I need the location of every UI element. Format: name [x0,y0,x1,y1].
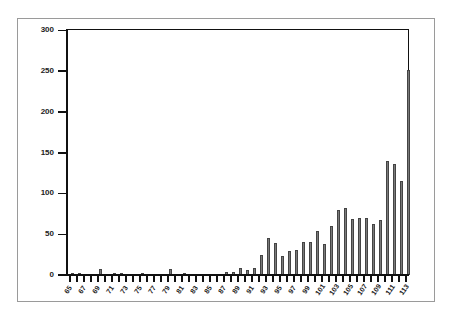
x-tick [272,275,274,282]
bar-99 [309,242,312,275]
bar-110 [386,161,389,275]
y-tick [58,275,67,277]
x-tick [370,275,372,282]
bar-112 [400,181,403,275]
x-tick [356,275,358,282]
bar-113 [407,70,410,275]
bar-106 [358,218,361,275]
y-tick [58,30,67,32]
y-tick-label: 100 [14,188,54,197]
bar-96 [288,251,291,276]
x-tick [328,275,330,282]
bar-100 [316,231,319,275]
x-tick [160,275,162,282]
bar-95 [281,256,284,275]
bar-111 [393,164,396,275]
bar-105 [351,219,354,275]
bar-94 [274,243,277,275]
bar-92 [260,255,263,275]
y-tick [58,70,67,72]
bar-104 [344,208,347,275]
bar-101 [323,244,326,275]
x-tick [202,275,204,282]
bar-98 [302,242,305,275]
x-tick [132,275,134,282]
x-tick [398,275,400,282]
x-tick [174,275,176,282]
x-tick [90,275,92,282]
y-tick-label: 200 [14,107,54,116]
x-tick [76,275,78,282]
x-tick [300,275,302,282]
x-tick [314,275,316,282]
bar-108 [372,224,375,275]
x-tick [258,275,260,282]
bar-107 [365,218,368,275]
y-tick-label: 250 [14,66,54,75]
bar-97 [295,250,298,275]
y-tick [58,111,67,113]
x-tick [384,275,386,282]
x-tick [104,275,106,282]
y-tick-label: 300 [14,25,54,34]
bar-103 [337,210,340,275]
x-tick [146,275,148,282]
x-tick [286,275,288,282]
y-tick [58,152,67,154]
y-tick-label: 150 [14,148,54,157]
x-tick [188,275,190,282]
x-tick [342,275,344,282]
y-tick-label: 50 [14,229,54,238]
bar-102 [330,226,333,275]
x-tick [216,275,218,282]
bar-93 [267,238,270,275]
x-tick [244,275,246,282]
bar-109 [379,220,382,275]
y-tick [58,234,67,236]
y-tick-label: 0 [14,270,54,279]
y-tick [58,193,67,195]
x-tick [118,275,120,282]
x-tick [230,275,232,282]
